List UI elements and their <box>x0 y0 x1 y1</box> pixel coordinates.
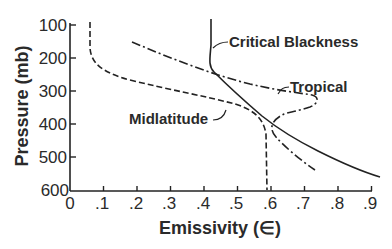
label-critical-blackness: Critical Blackness <box>229 33 358 50</box>
x-tick-label: .5 <box>229 194 243 213</box>
label-tropical: Tropical <box>290 78 348 95</box>
x-tick-label: .8 <box>330 194 344 213</box>
emissivity-pressure-chart: 100 200 300 400 500 600 0 .1 .2 .3 .4 .5… <box>0 0 392 249</box>
leader-critical-blackness <box>213 42 228 48</box>
x-tick-label: .4 <box>196 194 210 213</box>
y-tick-label: 300 <box>39 82 67 101</box>
y-tick-label: 200 <box>39 49 67 68</box>
x-tick-label: .3 <box>162 194 176 213</box>
x-tick-label: .2 <box>129 194 143 213</box>
x-ticks: 0 .1 .2 .3 .4 .5 .6 .7 .8 .9 <box>65 186 377 213</box>
x-tick-label: 0 <box>65 194 74 213</box>
x-tick-label: .9 <box>363 194 377 213</box>
y-tick-label: 400 <box>39 115 67 134</box>
x-tick-label: .7 <box>296 194 310 213</box>
curve-tropical <box>132 42 317 170</box>
y-axis-title: Pressure (mb) <box>12 45 32 166</box>
label-midlatitude: Midlatitude <box>129 110 208 127</box>
leader-midlatitude <box>213 110 226 120</box>
x-tick-label: .6 <box>263 194 277 213</box>
x-axis-title: Emissivity (∈) <box>159 218 281 238</box>
y-tick-label: 500 <box>39 148 67 167</box>
x-tick-label: .1 <box>95 194 109 213</box>
y-tick-label: 100 <box>39 16 67 35</box>
